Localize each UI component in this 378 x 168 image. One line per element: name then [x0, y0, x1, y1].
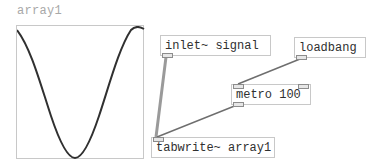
metro-outlet-port[interactable] — [233, 102, 244, 107]
inlet-object[interactable]: inlet~ signal — [160, 35, 271, 56]
cord-loadbang-metro[interactable] — [238, 59, 300, 84]
metro-inlet-left-port[interactable] — [233, 84, 244, 89]
array-curve — [17, 26, 145, 160]
tabwrite-object-text: tabwrite~ array1 — [156, 141, 271, 155]
loadbang-object[interactable]: loadbang — [294, 37, 366, 58]
loadbang-object-text: loadbang — [299, 41, 357, 55]
array-graph[interactable] — [16, 25, 144, 159]
tabwrite-object[interactable]: tabwrite~ array1 — [151, 137, 275, 158]
metro-object[interactable]: metro 100 — [231, 84, 311, 105]
metro-object-text: metro 100 — [236, 88, 301, 102]
inlet-object-text: inlet~ signal — [165, 39, 259, 53]
metro-inlet-right-port[interactable] — [298, 84, 309, 89]
tabwrite-inlet-port[interactable] — [153, 137, 164, 142]
loadbang-outlet-port[interactable] — [296, 55, 307, 60]
signal-cord-inlet-tabwrite[interactable] — [156, 57, 166, 137]
cord-metro-tabwrite[interactable] — [157, 105, 237, 137]
inlet-outlet-port[interactable] — [162, 53, 173, 58]
array-label: array1 — [17, 4, 62, 18]
